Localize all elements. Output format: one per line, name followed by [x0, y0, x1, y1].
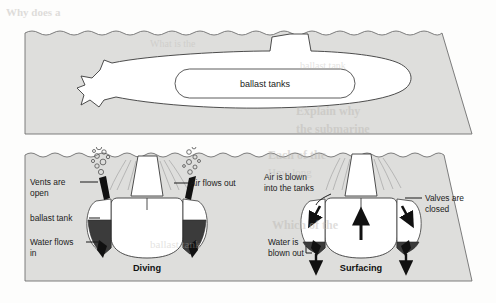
ballast-tanks-label: ballast tanks — [240, 79, 291, 89]
label-blown-out: blown out — [268, 248, 305, 258]
caption-surfacing: Surfacing — [340, 263, 382, 273]
label-water-flows: Water flows — [30, 237, 73, 247]
label-into-the-tanks: into the tanks — [264, 183, 314, 193]
label-ballast-tank: ballast tank — [30, 213, 73, 223]
label-in: in — [30, 248, 37, 258]
panel-cross-sections: Vents are open ballast tank Water flows … — [25, 136, 472, 281]
panel-side-view: ballast tanks — [25, 31, 472, 134]
label-valves-are: Valves are — [425, 193, 464, 203]
label-vents-are: Vents are — [30, 177, 66, 187]
label-open: open — [30, 188, 49, 198]
scanned-figure-page: Why does a What is the ballast tank Expl… — [0, 0, 496, 303]
label-closed: closed — [425, 204, 450, 214]
label-water-is: Water is — [268, 237, 298, 247]
label-air-flows-out: Air flows out — [190, 178, 236, 188]
label-air-is-blown: Air is blown — [264, 172, 307, 182]
caption-diving: Diving — [133, 263, 161, 273]
